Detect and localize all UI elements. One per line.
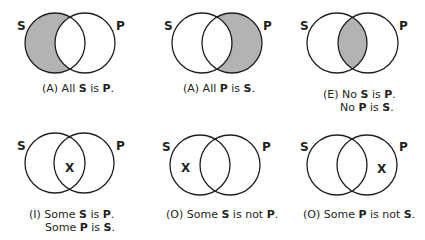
existence-mark-p-only: X (377, 163, 386, 175)
circle-p (54, 133, 114, 193)
caption: (O) Some S is not P. (166, 208, 278, 221)
set-label-s: S (300, 141, 309, 153)
venn-diagram-all-p-is-s: S P (A) All P is S. (140, 0, 281, 120)
set-label-p: P (116, 20, 125, 32)
venn-circles (0, 0, 141, 120)
existence-mark-s-only: X (181, 162, 190, 174)
set-label-p: P (399, 141, 408, 153)
set-label-s: S (164, 20, 173, 32)
caption-line-1: (E) No S is P. (323, 88, 396, 101)
set-label-s: S (17, 140, 26, 152)
circle-s (25, 133, 85, 193)
venn-diagram-some-p-is-not-s: S P X (O) Some P is not S. (280, 120, 421, 240)
set-label-p: P (399, 20, 408, 32)
venn-diagram-some-s-is-p: S P X (I) Some S is P. Some P is S. (0, 120, 141, 240)
venn-circles (280, 120, 425, 240)
caption: (A) All P is S. (183, 82, 255, 95)
set-label-s: S (17, 20, 26, 32)
caption: (A) All S is P. (42, 82, 114, 95)
caption-line-2: No P is S. (340, 101, 394, 114)
caption-line-2: Some P is S. (45, 221, 115, 234)
set-label-s: S (162, 141, 171, 153)
set-label-p: P (262, 141, 271, 153)
caption-line-1: (I) Some S is P. (29, 208, 114, 221)
caption: (O) Some P is not S. (303, 208, 415, 221)
venn-diagram-all-s-is-p: S P (A) All S is P. (0, 0, 141, 120)
existence-mark-intersection: X (65, 162, 74, 174)
set-label-s: S (300, 20, 309, 32)
venn-circles (140, 120, 281, 240)
venn-circles (140, 0, 281, 120)
venn-diagram-no-s-is-p: S P (E) No S is P. No P is S. (280, 0, 421, 120)
set-label-p: P (263, 20, 272, 32)
venn-diagram-some-s-is-not-p: S P X (O) Some S is not P. (140, 120, 281, 240)
set-label-p: P (116, 140, 125, 152)
